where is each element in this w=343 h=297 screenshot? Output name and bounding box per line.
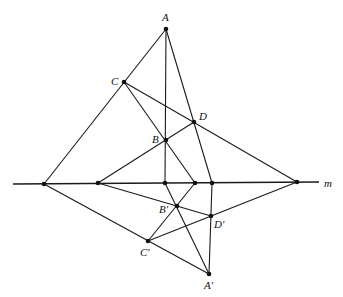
segment-Cp-M6	[148, 182, 297, 241]
point-D	[192, 120, 197, 125]
segment-C-M6	[124, 82, 297, 182]
label-Bp: B′	[159, 203, 169, 215]
segment-C-M4	[124, 82, 195, 183]
point-M6	[295, 180, 300, 185]
line-m-label: m	[324, 177, 332, 189]
label-D: D	[198, 110, 207, 122]
point-M4	[193, 181, 198, 186]
label-Cp: C′	[140, 246, 150, 258]
label-Ap: A′	[203, 279, 214, 291]
point-Ap	[207, 272, 212, 277]
label-A: A	[161, 11, 169, 23]
segment-M2-Dp	[98, 183, 211, 216]
label-C: C	[111, 75, 119, 87]
label-Dp: D′	[213, 218, 225, 230]
point-B	[164, 138, 169, 143]
segment-M3-Ap	[165, 183, 209, 274]
point-Dp	[209, 214, 214, 219]
segment-A-M1	[44, 29, 166, 184]
point-A	[164, 27, 169, 32]
point-labels: ACDBB′D′C′A′	[111, 11, 225, 291]
point-M1	[42, 182, 47, 187]
desargues-diagram: m ACDBB′D′C′A′	[0, 0, 343, 297]
point-M5	[210, 181, 215, 186]
segment-M1-Ap	[44, 184, 209, 274]
point-M2	[96, 181, 101, 186]
segment-M5-Ap	[209, 183, 212, 274]
point-C	[122, 80, 127, 85]
point-Bp	[175, 204, 180, 209]
segment-M2-D	[98, 122, 194, 183]
points	[42, 27, 300, 277]
segment-M4-Cp	[148, 183, 195, 241]
point-Cp	[146, 239, 151, 244]
construction-lines	[44, 29, 297, 274]
segment-A-M5	[166, 29, 212, 183]
point-M3	[163, 181, 168, 186]
label-B: B	[152, 133, 159, 145]
